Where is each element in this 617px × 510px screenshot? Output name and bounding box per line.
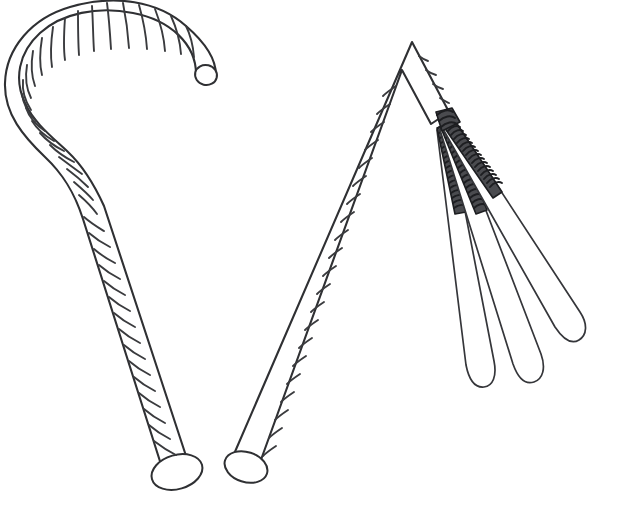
crook-and-flail-drawing: Crook and Flail line drawing Black-and-w… — [0, 0, 617, 510]
figure-canvas: Crook and Flail line drawing Black-and-w… — [0, 0, 617, 510]
